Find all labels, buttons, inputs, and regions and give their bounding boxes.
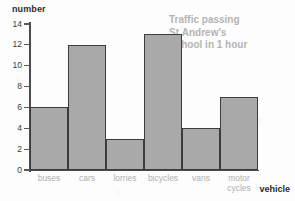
bar-chart-figure: number Traffic passing St.Andrew's Schoo…	[0, 0, 295, 201]
y-axis-tick-label: 4	[8, 124, 22, 132]
x-axis-category-label: buses	[30, 173, 68, 183]
y-axis-tick-label: 12	[8, 40, 22, 48]
bar	[182, 128, 220, 170]
x-axis-category-label: bicycles	[144, 173, 182, 183]
y-axis-tick-label: 14	[8, 20, 22, 28]
y-axis-tick-label: 10	[8, 61, 22, 69]
y-axis-tick-label: 6	[8, 103, 22, 111]
y-axis-tick-label: 8	[8, 82, 22, 90]
y-axis-tick-label: 2	[8, 145, 22, 153]
bar	[30, 107, 68, 170]
x-axis-title: vehicle	[259, 184, 290, 194]
x-axis-category-label: cars	[68, 173, 106, 183]
bar	[220, 97, 258, 170]
x-axis-category-label: vans	[182, 173, 220, 183]
x-axis-category-label: lorries	[106, 173, 144, 183]
y-axis-tick-label: 0	[8, 166, 22, 174]
bar	[68, 45, 106, 170]
bar	[106, 139, 144, 170]
x-axis-category-label: motor cycles	[220, 173, 258, 193]
plot-area	[30, 24, 258, 170]
y-axis-title: number	[12, 4, 46, 14]
bar	[144, 34, 182, 170]
